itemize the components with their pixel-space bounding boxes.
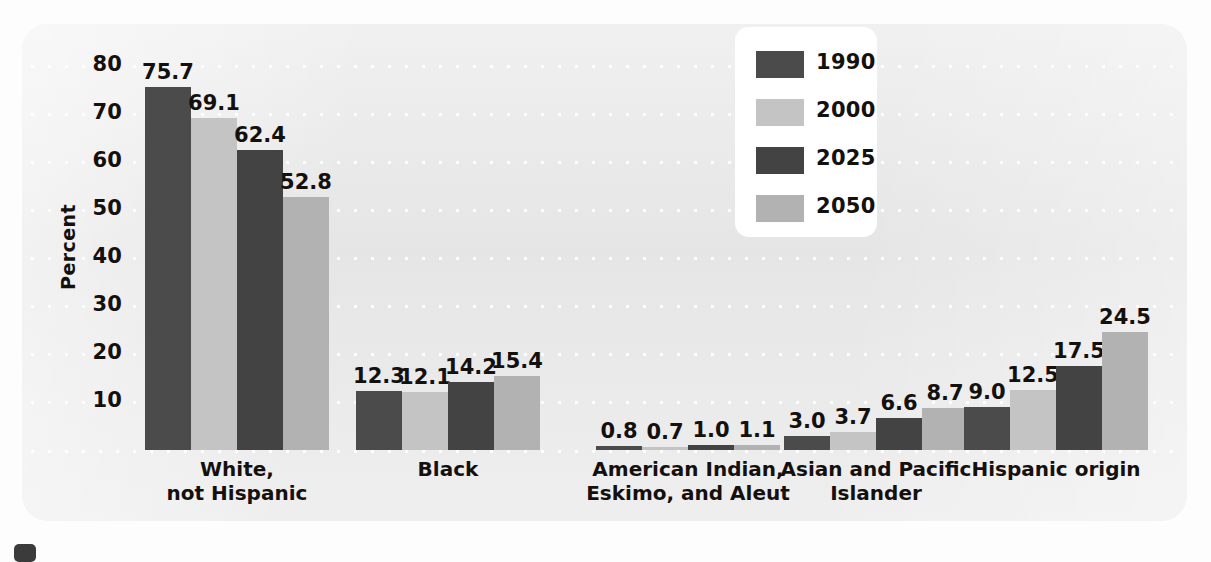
category-label-line: Islander <box>736 482 1016 506</box>
legend-label: 2000 <box>816 98 876 122</box>
bar <box>1056 366 1102 450</box>
bar <box>237 150 283 450</box>
chart-legend: 1990200020252050 <box>735 27 877 237</box>
bar <box>964 407 1010 450</box>
bar <box>1102 332 1148 450</box>
caption-bullet-icon <box>14 544 36 562</box>
category-label: Hispanic origin <box>916 458 1196 482</box>
bar <box>494 376 540 450</box>
bar <box>191 118 237 450</box>
bar <box>830 432 876 450</box>
bar <box>283 197 329 450</box>
legend-swatch-icon <box>756 195 804 222</box>
category-label-line: not Hispanic <box>97 482 377 506</box>
bar <box>356 391 402 450</box>
bar-value-label: 52.8 <box>274 170 338 194</box>
legend-label: 2025 <box>816 146 876 170</box>
legend-swatch-icon <box>756 99 804 126</box>
bar-value-label: 15.4 <box>485 349 549 373</box>
bar <box>922 408 968 450</box>
legend-swatch-icon <box>756 147 804 174</box>
legend-label: 1990 <box>816 50 876 74</box>
bar <box>145 87 191 450</box>
bar-value-label: 69.1 <box>182 91 246 115</box>
legend-label: 2050 <box>816 194 876 218</box>
bar <box>448 382 494 450</box>
category-label: Black <box>308 458 588 482</box>
bar-value-label: 62.4 <box>228 123 292 147</box>
bar <box>734 445 780 450</box>
bar <box>688 445 734 450</box>
bar <box>876 418 922 450</box>
legend-swatch-icon <box>756 51 804 78</box>
bar-value-label: 75.7 <box>136 60 200 84</box>
bar <box>402 392 448 450</box>
bar-value-label: 24.5 <box>1093 305 1157 329</box>
category-label-line: Hispanic origin <box>916 458 1196 482</box>
bar <box>596 446 642 450</box>
bar <box>1010 390 1056 450</box>
bar <box>642 447 688 450</box>
category-label-line: Black <box>308 458 588 482</box>
bar <box>784 436 830 450</box>
